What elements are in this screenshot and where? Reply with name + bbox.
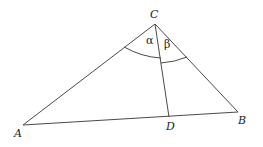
angle-beta-label: β [164,38,170,51]
angle-alpha-arc [124,47,161,58]
triangle-diagram: α β C A B D [0,0,263,147]
angle-beta-arc [161,57,187,63]
point-d-label: D [165,120,175,133]
vertex-c-label: C [150,8,159,21]
vertex-a-label: A [13,127,22,140]
angle-alpha-label: α [146,34,154,47]
segment-ab [23,112,238,125]
vertex-b-label: B [237,114,246,127]
segment-ac [23,24,155,125]
